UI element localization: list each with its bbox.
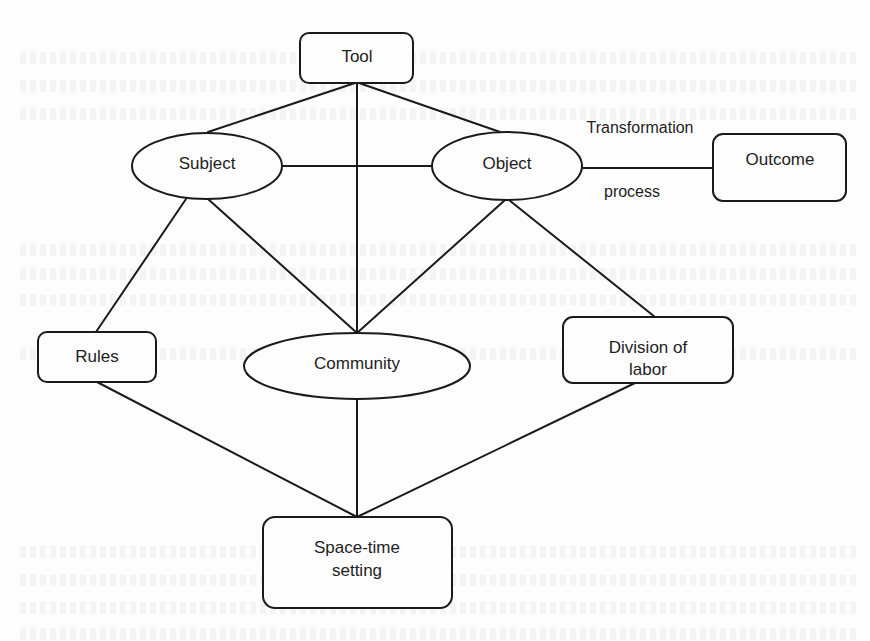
edge-subject-community bbox=[208, 199, 357, 333]
edge-subject-rules bbox=[96, 199, 186, 332]
edge-object-community bbox=[357, 200, 505, 333]
node-division-label-line1: Division of bbox=[565, 337, 731, 359]
node-subject-label: Subject bbox=[179, 154, 236, 174]
node-community-label: Community bbox=[314, 354, 400, 374]
node-spacetime-label-line1: Space-time bbox=[314, 538, 400, 558]
diagram-page: Tool Subject Object Outcome Rules Commun… bbox=[0, 0, 870, 641]
node-spacetime-label-line2: setting bbox=[332, 561, 382, 581]
node-division-label: Division of labor bbox=[565, 319, 731, 380]
edge-division-spacetime bbox=[357, 383, 635, 517]
edge-tool-subject bbox=[208, 83, 355, 132]
diagram-canvas bbox=[0, 0, 870, 641]
node-object-label: Object bbox=[482, 154, 531, 174]
node-tool-label: Tool bbox=[341, 47, 372, 67]
edge-tool-object bbox=[359, 83, 503, 133]
edge-object-division bbox=[509, 200, 655, 317]
node-division-label-line2: labor bbox=[565, 359, 731, 380]
edge-label-transformation: Transformation bbox=[587, 119, 694, 137]
edge-label-process: process bbox=[604, 183, 660, 201]
node-outcome-label: Outcome bbox=[746, 150, 815, 170]
edge-rules-spacetime bbox=[97, 382, 357, 517]
node-rules-label: Rules bbox=[75, 347, 118, 367]
